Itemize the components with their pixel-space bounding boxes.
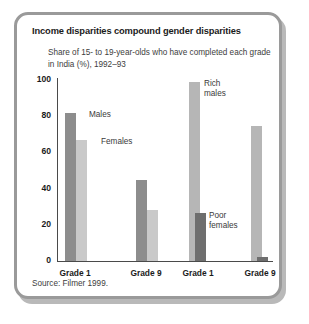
- y-tick-label-80: 80: [25, 110, 51, 120]
- x-tick-label-grade1-income: Grade 1: [174, 268, 222, 278]
- figure-panel: Income disparities compound gender dispa…: [14, 12, 282, 299]
- x-tick-label-grade9-income: Grade 9: [236, 268, 284, 278]
- x-tick-label-grade1-gender: Grade 1: [51, 268, 99, 278]
- annotation-rich-males: Rich males: [204, 79, 226, 99]
- y-axis-line: [57, 78, 58, 262]
- bar-females-grade1: [75, 140, 87, 261]
- y-tick-label-60: 60: [25, 146, 51, 156]
- x-tick-label-grade9-gender: Grade 9: [122, 268, 170, 278]
- bar-rich-males-grade9: [251, 126, 262, 261]
- annotation-males: Males: [89, 110, 111, 120]
- bar-poor-females-grade1: [195, 213, 206, 261]
- x-axis-line: [57, 261, 273, 262]
- chart-plot-area: 100 80 60 40 20 0 Males Females Rich mal…: [17, 15, 279, 296]
- source-note: Source: Filmer 1999.: [32, 279, 108, 288]
- bar-females-grade9: [146, 210, 158, 261]
- y-tick-label-20: 20: [25, 219, 51, 229]
- bar-males-grade1: [65, 113, 76, 261]
- y-tick-label-100: 100: [25, 74, 51, 84]
- y-tick-label-0: 0: [25, 255, 51, 265]
- bar-males-grade9: [136, 180, 147, 261]
- bar-poor-females-grade9: [257, 257, 268, 261]
- annotation-poor-females: Poor females: [209, 211, 238, 231]
- annotation-females: Females: [101, 137, 132, 147]
- y-tick-label-40: 40: [25, 183, 51, 193]
